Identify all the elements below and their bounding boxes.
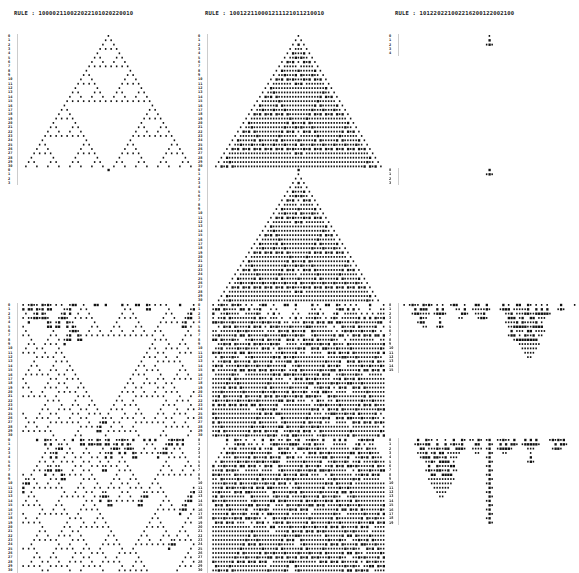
axis-line: [398, 303, 399, 373]
generation-numbers: 0 1 2 3 4 5 6 7 8 9 10 11 12 13 14 15 16…: [198, 303, 202, 438]
axis-line: [207, 438, 208, 573]
ca-evolution-plot: [212, 168, 388, 305]
generation-numbers: 0 1 2 3 4 5 6 7 8 9 10 11 12 13 14 15 16…: [198, 168, 202, 303]
generation-numbers: 0 1 2 3 4 5 6 7 8 9 10 11 12 13 14 15 16…: [8, 34, 12, 169]
ca-evolution-plot: [403, 303, 579, 375]
rule-label-col1: RULE : 100002110022022101020220010: [14, 10, 133, 16]
axis-line: [398, 34, 399, 56]
ca-evolution-plot: [212, 438, 388, 573]
ca-evolution-plot: [22, 438, 198, 573]
ca-evolution-plot: [22, 168, 198, 188]
axis-line: [398, 438, 399, 525]
ca-evolution-plot: [22, 303, 198, 440]
axis-line: [17, 34, 18, 169]
generation-numbers: 0 1 2 3 4 5 6 7 8 9 10 11 12 13 14 15: [389, 303, 393, 373]
axis-line: [207, 34, 208, 169]
rule-label-col2: RULE : 100122110001211121011210010: [205, 10, 324, 16]
axis-line: [207, 303, 208, 438]
axis-line: [17, 438, 18, 573]
generation-numbers: 0 1 2 3 4 5 6 7 8 9 10 11 12 13 14 15 16…: [389, 438, 393, 525]
ca-evolution-plot: [403, 34, 579, 58]
ca-evolution-plot: [22, 34, 198, 171]
axis-line: [17, 303, 18, 438]
generation-numbers: 0 1 2 3 4: [389, 34, 391, 56]
axis-line: [207, 168, 208, 303]
ca-evolution-plot: [212, 34, 388, 171]
generation-numbers: 0 1 2 3 4 5 6 7 8 9 10 11 12 13 14 15 16…: [198, 34, 202, 169]
generation-numbers: 0 1 2 3 4 5 6 7 8 9 10 11 12 13 14 15 16…: [198, 438, 202, 573]
generation-numbers: 0 1 2 3: [389, 168, 391, 185]
generation-numbers: 0 1 2 3 4 5 6 7 8 9 10 11 12 13 14 15 16…: [8, 303, 12, 438]
generation-numbers: 0 1 2 3 4 5 6 7 8 9 10 11 12 13 14 15 16…: [8, 438, 12, 573]
axis-line: [398, 168, 399, 185]
rule-label-col3: RULE : 101220221002216200122002100: [395, 10, 514, 16]
ca-evolution-plot: [212, 303, 388, 440]
ca-evolution-plot: [403, 168, 579, 188]
generation-numbers: 0 1 2 3: [8, 168, 10, 185]
axis-line: [17, 168, 18, 185]
ca-evolution-plot: [403, 438, 579, 527]
